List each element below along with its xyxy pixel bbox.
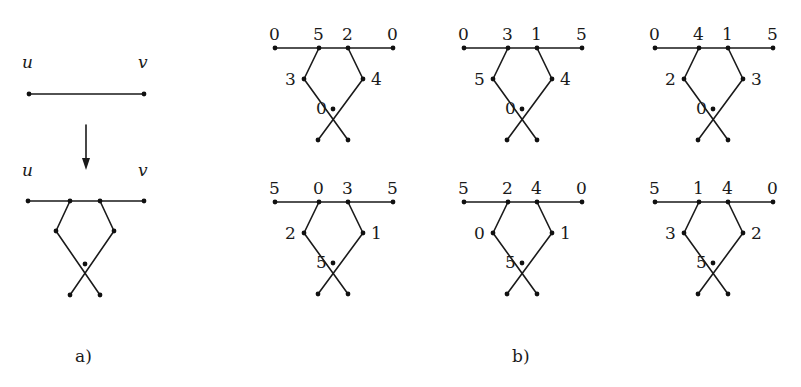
top-label-1: 0 [269, 24, 280, 44]
left-label: 2 [285, 223, 296, 243]
node-v [142, 92, 147, 97]
top-label-2: 2 [502, 178, 513, 198]
arrow-down-icon [82, 158, 90, 170]
top-label-3: 3 [342, 178, 353, 198]
center-label: 0 [505, 98, 516, 118]
label-u-after: u [22, 160, 33, 180]
center-label: 0 [696, 98, 707, 118]
caption-a: a) [75, 346, 92, 366]
top-label-4: 5 [387, 178, 398, 198]
labeled-graph-1: 0 5 2 0 3 4 0 [269, 24, 398, 142]
top-label-1: 5 [458, 178, 469, 198]
right-label: 4 [371, 69, 382, 89]
label-v-before: v [138, 52, 148, 72]
top-label-4: 0 [387, 24, 398, 44]
top-label-3: 1 [531, 24, 542, 44]
left-label: 3 [285, 69, 296, 89]
right-label: 1 [371, 223, 382, 243]
center-label: 5 [505, 252, 516, 272]
top-label-3: 2 [342, 24, 353, 44]
part-a: u v u v a) [22, 52, 148, 366]
center-label: 5 [316, 252, 327, 272]
labeled-graph-6: 5 1 4 0 3 2 5 [649, 178, 778, 296]
edge-uv-before: u v [22, 52, 148, 96]
labeled-graph-3: 0 4 1 5 2 3 0 [649, 24, 778, 142]
top-label-3: 4 [722, 178, 733, 198]
node-u [27, 92, 32, 97]
label-u-before: u [22, 52, 33, 72]
right-label: 2 [751, 223, 762, 243]
part-b: 0 5 2 0 3 4 0 0 3 1 5 5 4 0 [269, 24, 778, 366]
top-label-2: 1 [693, 178, 704, 198]
left-label: 5 [474, 69, 485, 89]
top-label-2: 0 [313, 178, 324, 198]
top-label-1: 0 [649, 24, 660, 44]
top-label-4: 5 [767, 24, 778, 44]
left-label: 2 [665, 69, 676, 89]
gadget-after: u v [22, 160, 148, 297]
top-label-4: 0 [767, 178, 778, 198]
caption-b: b) [512, 346, 530, 366]
top-label-2: 3 [502, 24, 513, 44]
right-label: 1 [560, 223, 571, 243]
transform-arrow [82, 125, 90, 170]
labeled-graph-2: 0 3 1 5 5 4 0 [458, 24, 587, 142]
top-label-4: 0 [576, 178, 587, 198]
labeled-graph-5: 5 2 4 0 0 1 5 [458, 178, 587, 296]
top-label-1: 5 [269, 178, 280, 198]
top-label-1: 5 [649, 178, 660, 198]
top-label-2: 4 [693, 24, 704, 44]
top-label-1: 0 [458, 24, 469, 44]
top-label-4: 5 [576, 24, 587, 44]
left-label: 0 [474, 223, 485, 243]
top-label-3: 4 [531, 178, 542, 198]
label-v-after: v [138, 160, 148, 180]
center-label: 0 [316, 98, 327, 118]
center-label: 5 [696, 252, 707, 272]
right-label: 4 [560, 69, 571, 89]
figure-canvas: u v u v a) [0, 0, 801, 387]
right-label: 3 [751, 69, 762, 89]
labeled-graph-4: 5 0 3 5 2 1 5 [269, 178, 398, 296]
top-label-2: 5 [313, 24, 324, 44]
left-label: 3 [665, 223, 676, 243]
top-label-3: 1 [722, 24, 733, 44]
